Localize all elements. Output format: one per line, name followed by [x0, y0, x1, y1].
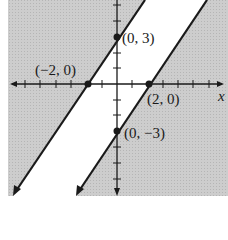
x-axis-label: x: [217, 88, 225, 104]
point-2-0: [146, 81, 153, 88]
label-0-neg3: (0, −3): [124, 125, 165, 142]
point-0-3: [114, 34, 121, 41]
point-neg2-0: [85, 81, 92, 88]
label-0-3: (0, 3): [122, 30, 155, 47]
label-2-0: (2, 0): [147, 91, 180, 108]
inequality-graph: (−2, 0) (0, 3) (2, 0) (0, −3) x: [0, 0, 228, 240]
label-neg2-0: (−2, 0): [35, 62, 76, 79]
shaded-region: [8, 0, 228, 196]
point-0-neg3: [114, 128, 121, 135]
